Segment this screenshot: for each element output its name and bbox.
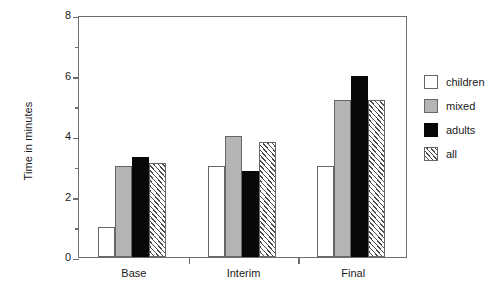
y-tick-label: 6 (55, 70, 71, 82)
y-tick-label: 4 (55, 130, 71, 142)
y-tick-mark (75, 228, 79, 230)
y-tick-mark (73, 259, 79, 261)
legend-item-all[interactable]: all (424, 142, 504, 166)
y-tick-label: 8 (55, 9, 71, 21)
bar-interim-adults (242, 171, 259, 257)
x-group-separator (189, 257, 191, 264)
legend-item-mixed[interactable]: mixed (424, 94, 504, 118)
bar-chart: Time in minutes 02468 BaseInterimFinal c… (0, 0, 504, 296)
legend-swatch-mixed-icon (424, 99, 438, 113)
bar-base-all (149, 163, 166, 257)
x-axis-label-base: Base (121, 267, 146, 279)
legend-label: all (446, 148, 457, 160)
bar-interim-children (208, 166, 225, 257)
x-axis-label-interim: Interim (227, 267, 261, 279)
y-tick-label: 2 (55, 191, 71, 203)
y-tick-label: 0 (55, 251, 71, 263)
bar-interim-all (259, 142, 276, 257)
plot-area: 02468 BaseInterimFinal (78, 16, 407, 258)
legend-item-adults[interactable]: adults (424, 118, 504, 142)
y-tick-mark (75, 168, 79, 170)
bar-base-children (98, 227, 115, 257)
bar-base-mixed (115, 166, 132, 257)
y-tick-mark (75, 47, 79, 49)
x-group-separator (298, 257, 300, 264)
x-axis-label-final: Final (341, 267, 365, 279)
y-tick-mark (73, 198, 79, 200)
bar-final-children (317, 166, 334, 257)
y-tick-mark (73, 17, 79, 19)
bar-final-mixed (334, 100, 351, 257)
legend: childrenmixedadultsall (424, 70, 504, 166)
y-tick-mark (73, 77, 79, 79)
y-tick-mark (73, 138, 79, 140)
legend-swatch-children-icon (424, 75, 438, 89)
y-axis-title: Time in minutes (22, 66, 34, 216)
legend-label: children (446, 76, 485, 88)
bar-interim-mixed (225, 136, 242, 257)
bar-final-all (368, 100, 385, 257)
legend-label: mixed (446, 100, 475, 112)
bar-final-adults (351, 76, 368, 258)
y-tick-mark (75, 107, 79, 109)
legend-swatch-all-icon (424, 147, 438, 161)
legend-item-children[interactable]: children (424, 70, 504, 94)
legend-label: adults (446, 124, 475, 136)
bar-base-adults (132, 157, 149, 257)
legend-swatch-adults-icon (424, 123, 438, 137)
